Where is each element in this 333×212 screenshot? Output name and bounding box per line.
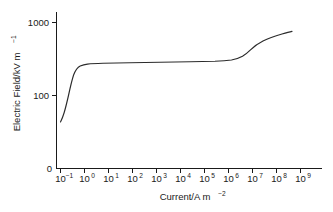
x-tick-label-4-mantissa: 10	[151, 173, 162, 184]
x-tick-label-7-exponent: 6	[235, 172, 239, 179]
x-tick-label-4-exponent: 3	[163, 172, 167, 179]
chart-svg: 1000 100 0 10 −1 10 0	[0, 0, 333, 212]
y-tick-label-100: 100	[33, 90, 49, 101]
x-tick-label-8-mantissa: 10	[247, 173, 258, 184]
x-tick-label-2-mantissa: 10	[103, 173, 114, 184]
x-tick-label-0-mantissa: 10	[55, 173, 66, 184]
x-tick-label-9-mantissa: 10	[271, 173, 282, 184]
x-tick-label-10-exponent: 9	[307, 172, 311, 179]
x-tick-label-2-exponent: 1	[115, 172, 119, 179]
x-axis-title-exponent: −2	[218, 190, 226, 197]
x-tick-label-5-exponent: 4	[187, 172, 191, 179]
x-tick-label-1-mantissa: 10	[79, 173, 90, 184]
x-tick-label-9-exponent: 8	[283, 172, 287, 179]
x-tick-label-3-mantissa: 10	[127, 173, 138, 184]
y-axis-title-main: Electric Field/kV m	[11, 53, 22, 132]
x-tick-label-6-mantissa: 10	[199, 173, 210, 184]
x-tick-label-5-mantissa: 10	[175, 173, 186, 184]
y-axis-title-exponent: −1	[10, 35, 17, 43]
y-tick-label-1000: 1000	[28, 17, 49, 28]
x-tick-label-10-mantissa: 10	[295, 173, 306, 184]
x-tick-label-6-exponent: 5	[211, 172, 215, 179]
chart-background	[0, 0, 333, 212]
x-tick-label-3-exponent: 2	[139, 172, 143, 179]
x-tick-label-7-mantissa: 10	[223, 173, 234, 184]
x-axis-title-main: Current/A m	[160, 191, 211, 202]
y-tick-label-0: 0	[47, 163, 52, 174]
x-tick-label-0-exponent: −1	[66, 172, 74, 179]
x-tick-label-8-exponent: 7	[259, 172, 263, 179]
x-tick-label-1-exponent: 0	[91, 172, 95, 179]
chart-figure: 1000 100 0 10 −1 10 0	[0, 0, 333, 212]
